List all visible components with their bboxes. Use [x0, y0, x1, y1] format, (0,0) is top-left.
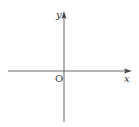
coordinate-plane: y x O	[0, 0, 139, 127]
origin-label: O	[55, 73, 63, 84]
y-axis-label: y	[55, 9, 62, 20]
x-axis-label: x	[124, 73, 130, 84]
